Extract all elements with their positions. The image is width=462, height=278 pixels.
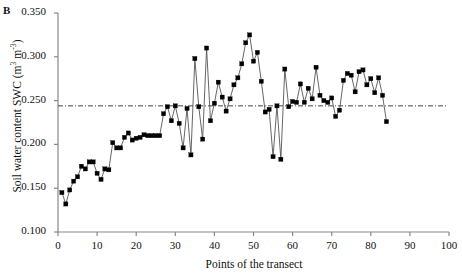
data-point	[349, 73, 353, 77]
data-point	[201, 137, 205, 141]
data-point	[83, 167, 87, 171]
data-point	[279, 157, 283, 161]
data-point	[263, 110, 267, 114]
data-point	[142, 133, 146, 137]
data-point	[353, 90, 357, 94]
data-point	[197, 105, 201, 109]
data-point	[318, 93, 322, 97]
chart-figure: B Soil water content SWC (m3 m-3) Points…	[0, 0, 462, 278]
data-point	[271, 155, 275, 159]
data-point	[165, 105, 169, 109]
data-point	[95, 171, 99, 175]
data-point	[177, 121, 181, 125]
data-point	[294, 100, 298, 104]
data-point	[247, 33, 251, 37]
data-point	[267, 107, 271, 111]
plot-area	[0, 0, 462, 278]
data-point	[306, 86, 310, 90]
data-point	[369, 77, 373, 81]
data-point	[75, 175, 79, 179]
data-point	[118, 146, 122, 150]
data-series	[60, 33, 389, 206]
axes	[58, 13, 449, 232]
data-point	[302, 100, 306, 104]
data-point	[275, 104, 279, 108]
data-point	[150, 134, 154, 138]
data-point	[240, 62, 244, 66]
data-point	[259, 79, 263, 83]
data-point	[365, 83, 369, 87]
data-point	[181, 146, 185, 150]
data-point	[79, 164, 83, 168]
data-point	[64, 202, 68, 206]
data-point	[91, 160, 95, 164]
data-point	[330, 96, 334, 100]
data-point	[244, 41, 248, 45]
data-point	[377, 76, 381, 80]
data-point	[185, 106, 189, 110]
data-point	[216, 80, 220, 84]
data-point	[111, 141, 115, 145]
data-point	[224, 109, 228, 113]
data-point	[314, 65, 318, 69]
data-point	[68, 188, 72, 192]
data-point	[334, 114, 338, 118]
data-point	[357, 70, 361, 74]
data-point	[251, 59, 255, 63]
data-point	[228, 97, 232, 101]
data-point	[212, 101, 216, 105]
data-point	[236, 76, 240, 80]
data-point	[103, 167, 107, 171]
data-point	[87, 160, 91, 164]
data-point	[373, 91, 377, 95]
data-point	[337, 108, 341, 112]
data-point	[361, 68, 365, 72]
data-point	[138, 135, 142, 139]
data-point	[208, 119, 212, 123]
data-point	[291, 99, 295, 103]
data-point	[341, 78, 345, 82]
data-point	[193, 56, 197, 60]
data-point	[173, 104, 177, 108]
data-point	[99, 177, 103, 181]
data-point	[72, 179, 76, 183]
x-axis-ticks	[58, 232, 449, 236]
data-point	[146, 134, 150, 138]
data-point	[158, 134, 162, 138]
data-point	[115, 146, 119, 150]
data-point	[298, 82, 302, 86]
data-point	[189, 153, 193, 157]
data-point	[380, 93, 384, 97]
data-point	[220, 95, 224, 99]
data-point	[326, 100, 330, 104]
data-point	[169, 119, 173, 123]
data-point	[122, 135, 126, 139]
data-point	[134, 136, 138, 140]
data-point	[255, 50, 259, 54]
data-point	[322, 99, 326, 103]
data-point	[384, 120, 388, 124]
data-point	[161, 112, 165, 116]
data-point	[287, 105, 291, 109]
data-point	[130, 138, 134, 142]
data-point	[126, 131, 130, 135]
data-point	[204, 46, 208, 50]
data-point	[310, 97, 314, 101]
data-point	[107, 168, 111, 172]
data-point	[60, 190, 64, 194]
series-line	[62, 35, 387, 204]
data-point	[154, 134, 158, 138]
data-point	[345, 71, 349, 75]
data-point	[283, 67, 287, 71]
data-point	[232, 83, 236, 87]
